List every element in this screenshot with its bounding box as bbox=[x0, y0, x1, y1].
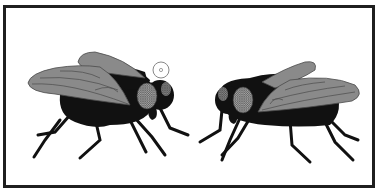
flies-illustration bbox=[0, 0, 380, 195]
right-fly-eye bbox=[233, 87, 253, 113]
right-fly bbox=[200, 62, 359, 162]
left-fly bbox=[28, 52, 188, 158]
ring-marker-icon bbox=[150, 62, 169, 82]
left-fly-eye bbox=[137, 83, 157, 109]
